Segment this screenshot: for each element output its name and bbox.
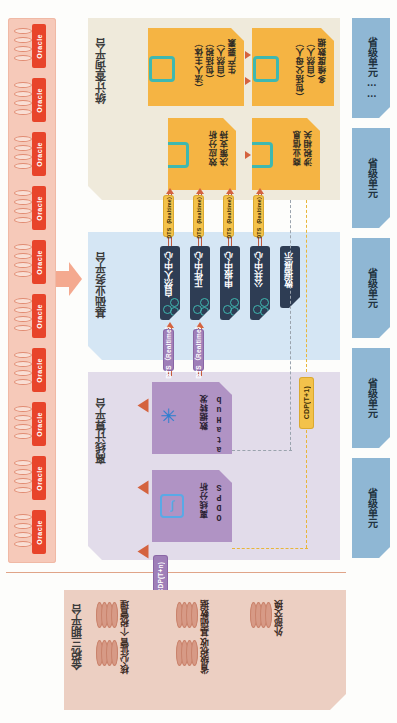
hub-star-icon: ✳ [160,406,177,426]
oracle-label: Oracle [36,412,43,437]
stat-card-decision-line1: 决策支持 [221,130,230,166]
disc-stack-icon [96,640,118,666]
basic-card-declare[interactable]: 申报中心 [220,246,240,320]
oracle-label: Oracle [36,358,43,383]
database-cylinder-icon [14,82,30,116]
disc-stack-icon [250,602,272,628]
disc-stack-icon [176,602,198,628]
oracle-logo-icon: Oracle [32,456,46,500]
gt3-item-external-exchange-label: 外部交换 [274,600,283,636]
disc-stack-icon [96,602,118,628]
connector-label-realtime-text: DTS（Realtime） [194,322,204,379]
offline-card-odps-title: ODPS [215,482,224,522]
cdp-t1-text: CDP(T+1) [303,386,310,419]
stat-card-multi-dim-line2: （自然人） [308,38,317,83]
database-cylinder-icon [14,244,30,278]
nodes-icon [163,298,178,314]
oracle-label: Oracle [36,250,43,275]
gt3-item-basic-data-label: 基础数据 [200,600,209,636]
offline-card-datahub[interactable]: ✳ DataHub 数据转发 [152,382,232,454]
gt3-item-personal-tax-label: 个税管理 [120,600,129,636]
section-divider [6,572,346,573]
basic-card-natural-person-label: 自然人中心 [164,252,173,297]
flow-arrow-icon [245,77,251,85]
connector-label-realtime: DTS（Realtime） [254,196,263,236]
oracle-db: Oracle [10,344,54,398]
oracle-label: Oracle [36,34,43,59]
provincial-unit-4-label: 省级单元 [366,158,377,198]
cdp-route-line [290,200,291,450]
database-cylinder-icon [14,298,30,332]
oracle-logo-icon: Oracle [32,348,46,392]
basic-card-display-label: 数据展示 [284,252,293,288]
connector-label-realtime: DTS（Realtime） [194,330,203,370]
stat-card-production-line4: （法人主体） [196,38,205,92]
oracle-label: Oracle [36,88,43,113]
provincial-unit-2[interactable]: 省级单元 [352,348,390,448]
connector-label-realtime: DTS（Realtime） [164,330,173,370]
stat-card-production-line2: （自然人） [218,38,227,83]
stat-card-tax-related[interactable]: 涉税相关 商业信息 [252,118,320,190]
connector-label-realtime: DTS（Realtime） [194,196,203,236]
offline-card-datahub-subtitle: 数据转发 [201,394,210,430]
oracle-logo-icon: Oracle [32,78,46,122]
basic-business-platform-title: 基础业务平台 [96,252,108,318]
oracle-logo-icon: Oracle [32,402,46,446]
basic-card-public[interactable]: 公共中心 [250,246,270,320]
oracle-label: Oracle [36,304,43,329]
stat-card-multi-dim[interactable]: 多维度数据 （自然人） （包括父母人） [252,28,334,106]
provincial-unit-5[interactable]: 省级单元…… [352,18,390,118]
provincial-unit-3-label: 省级单元 [366,268,377,308]
oracle-label: Oracle [36,196,43,221]
offline-card-odps[interactable]: ∫ ODPS 离线分析 [152,470,232,542]
stat-card-production[interactable]: 生产要素 （自然人） （包括税） （法人主体） [148,28,244,106]
stat-card-production-line1: 生产要素 [229,38,238,74]
cdp-route-line [306,430,307,548]
stat-card-multi-dim-line1: 多维度数据 [319,38,328,83]
basic-card-declare-label: 申报中心 [224,252,233,288]
database-cylinder-icon [14,136,30,170]
connector-label-realtime-text: DTS（Realtime） [165,194,172,239]
connector-label-realtime-text: DTS（Realtime） [164,322,174,379]
oracle-db: Oracle [10,398,54,452]
cdp-route-line [306,200,307,372]
oracle-logo-icon: Oracle [32,240,46,284]
provincial-unit-3[interactable]: 省级单元 [352,238,390,338]
database-cylinder-icon [14,406,30,440]
provincial-unit-1[interactable]: 省级单元 [352,458,390,558]
connector-label-realtime-text: DTS（Realtime） [225,194,232,239]
flow-arrow-icon [245,51,251,59]
basic-card-natural-person[interactable]: 自然人中心 [160,246,180,320]
cdp-t1-label: CDP(T+1) [300,378,313,428]
oracle-logo-icon: Oracle [32,186,46,230]
provincial-unit-4[interactable]: 省级单元 [352,128,390,228]
connector-label-realtime: DTS（Realtime） [224,196,233,236]
oracle-db: Oracle [10,182,54,236]
nodes-icon [253,298,268,314]
stat-card-tax-related-line1: 涉税相关 [305,130,314,166]
stat-card-tax-related-line2: 商业信息 [294,130,303,166]
oracle-source-strip: Oracle Oracle Oracle Oracle Oracle Oracl… [8,18,56,563]
database-cylinder-icon [14,28,30,62]
odps-icon: ∫ [160,494,184,518]
oracle-db: Oracle [10,74,54,128]
oracle-label: Oracle [36,142,43,167]
oracle-logo-icon: Oracle [32,294,46,338]
gt3-item-core-collect-label: 核心征管 [120,638,129,674]
flow-arrow-icon [138,399,149,413]
nodes-icon [193,298,208,314]
basic-card-subject[interactable]: 正件中心 [190,246,210,320]
basic-business-platform-panel [88,232,340,360]
oracle-label: Oracle [36,520,43,545]
data-feed-arrow-icon [56,262,82,296]
basic-card-public-label: 公共中心 [254,252,263,288]
oracle-db: Oracle [10,236,54,290]
stat-card-production-line3: （包括税） [207,38,216,83]
flow-arrow-icon [138,545,149,559]
oracle-db: Oracle [10,452,54,506]
disc-stack-icon [176,640,198,666]
gt3-item-prov-revenue-label: 省级税收 [200,638,209,674]
oracle-logo-icon: Oracle [32,132,46,176]
stat-card-decision[interactable]: 决策支持 效应分析 [168,118,236,190]
oracle-logo-icon: Oracle [32,510,46,554]
